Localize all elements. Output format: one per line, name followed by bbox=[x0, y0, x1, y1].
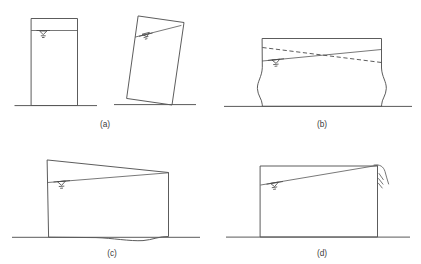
tilted-tank-outline bbox=[127, 16, 184, 105]
panel-d: (d) bbox=[226, 165, 410, 258]
panel-a-upright-tank bbox=[15, 19, 98, 106]
panel-d-caption: (d) bbox=[317, 248, 327, 258]
panel-d-tank-outline bbox=[261, 166, 378, 237]
panel-a-tilted-tank bbox=[114, 16, 196, 105]
panel-c-tank-outline bbox=[48, 160, 169, 241]
panel-b-tank-outline bbox=[257, 39, 386, 107]
panel-c: (c) bbox=[12, 160, 200, 258]
tank-seismic-response-figure: (a) (b) bbox=[0, 0, 421, 264]
panel-d-splash-strokes bbox=[378, 174, 383, 189]
panel-c-caption: (c) bbox=[107, 248, 117, 258]
panel-d-water-level-symbol bbox=[267, 182, 284, 190]
upright-tank-outline bbox=[32, 19, 78, 106]
figure-root: (a) (b) bbox=[0, 0, 421, 264]
upright-tank-water-level-symbol bbox=[37, 31, 51, 38]
panel-d-spill-curve bbox=[374, 165, 389, 184]
panel-b-caption: (b) bbox=[317, 119, 327, 129]
panel-a-caption: (a) bbox=[100, 119, 110, 129]
panel-a: (a) bbox=[15, 16, 197, 129]
panel-b: (b) bbox=[224, 39, 412, 130]
panel-b-water-level-symbol bbox=[268, 59, 284, 67]
tilted-tank-water-level-symbol bbox=[139, 32, 153, 39]
